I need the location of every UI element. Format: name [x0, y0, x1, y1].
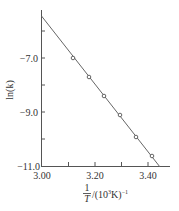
x-axis-title: 1 T /(103K)−1: [83, 182, 128, 204]
y-tick-label: −7.0: [20, 53, 38, 64]
data-point: [102, 94, 106, 98]
data-point: [134, 135, 138, 139]
chart-canvas: −7.0 −9.0 −11.0 3.00 3.20 3.40 ln(k) 1 T…: [0, 0, 179, 211]
x-ticks: [69, 162, 149, 166]
fit-line: [42, 16, 161, 167]
x-unit: /(103K)−1: [92, 189, 128, 201]
x-frac-numerator: 1: [85, 182, 90, 193]
y-tick-label: −9.0: [20, 107, 38, 118]
data-point: [150, 154, 154, 158]
y-axis-title: ln(k): [4, 80, 16, 99]
data-point: [71, 56, 75, 60]
x-tick-label: 3.20: [86, 170, 104, 181]
data-point: [87, 75, 91, 79]
data-point: [118, 113, 122, 117]
x-tick-label: 3.40: [139, 170, 157, 181]
x-tick-label: 3.00: [33, 170, 51, 181]
x-frac-denominator: T: [84, 193, 91, 204]
